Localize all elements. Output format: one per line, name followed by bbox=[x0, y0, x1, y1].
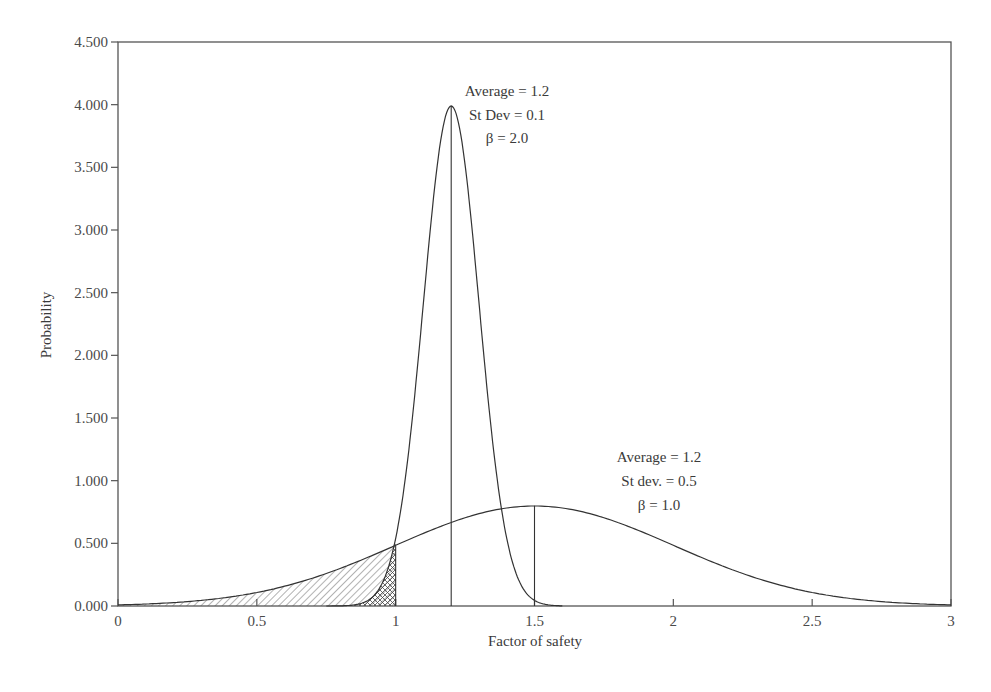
y-tick-label: 3.000 bbox=[74, 222, 108, 238]
x-tick-label: 3 bbox=[947, 613, 955, 629]
wide-stdev-label: St dev. = 0.5 bbox=[621, 473, 696, 489]
y-tick-label: 4.000 bbox=[74, 97, 108, 113]
y-axis-ticks: 0.0000.5001.0001.5002.0002.5003.0003.500… bbox=[74, 34, 118, 614]
narrow-average-label: Average = 1.2 bbox=[465, 83, 549, 99]
y-tick-label: 0.500 bbox=[74, 535, 108, 551]
y-tick-label: 1.000 bbox=[74, 473, 108, 489]
x-tick-label: 2 bbox=[670, 613, 678, 629]
narrow-curve-annotation: Average = 1.2 St Dev = 0.1 β = 2.0 bbox=[465, 83, 549, 146]
x-tick-label: 1.5 bbox=[525, 613, 544, 629]
reference-lines bbox=[396, 106, 535, 606]
y-tick-label: 3.500 bbox=[74, 159, 108, 175]
x-tick-label: 0.5 bbox=[247, 613, 266, 629]
y-tick-label: 2.000 bbox=[74, 347, 108, 363]
x-tick-label: 0 bbox=[114, 613, 122, 629]
diagonal-hatch-region bbox=[118, 545, 396, 606]
chart: 0.0000.5001.0001.5002.0002.5003.0003.500… bbox=[0, 0, 991, 692]
wide-curve-annotation: Average = 1.2 St dev. = 0.5 β = 1.0 bbox=[617, 449, 701, 513]
x-tick-label: 2.5 bbox=[803, 613, 822, 629]
shaded-failure-regions bbox=[118, 538, 396, 606]
x-axis-title: Factor of safety bbox=[488, 633, 583, 649]
y-tick-label: 4.500 bbox=[74, 34, 108, 50]
wide-beta-label: β = 1.0 bbox=[638, 497, 680, 513]
narrow-stdev-label: St Dev = 0.1 bbox=[469, 107, 545, 123]
y-axis-title: Probability bbox=[38, 291, 54, 358]
wide-average-label: Average = 1.2 bbox=[617, 449, 701, 465]
x-tick-label: 1 bbox=[392, 613, 400, 629]
y-tick-label: 2.500 bbox=[74, 285, 108, 301]
narrow-beta-label: β = 2.0 bbox=[486, 130, 528, 146]
y-tick-label: 1.500 bbox=[74, 410, 108, 426]
narrow-distribution-curve bbox=[326, 106, 562, 606]
y-tick-label: 0.000 bbox=[74, 598, 108, 614]
